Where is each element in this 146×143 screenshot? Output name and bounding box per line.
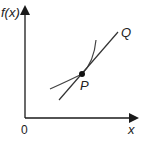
point-p-label: P <box>80 78 89 93</box>
x-axis-label: x <box>127 122 135 137</box>
tangent-diagram: f(x) x 0 P Q <box>0 0 146 143</box>
y-axis-arrow-icon <box>20 5 30 15</box>
y-axis-label: f(x) <box>1 5 20 20</box>
point-q-label: Q <box>121 25 131 40</box>
point-p <box>79 71 85 77</box>
origin-label: 0 <box>21 123 28 137</box>
